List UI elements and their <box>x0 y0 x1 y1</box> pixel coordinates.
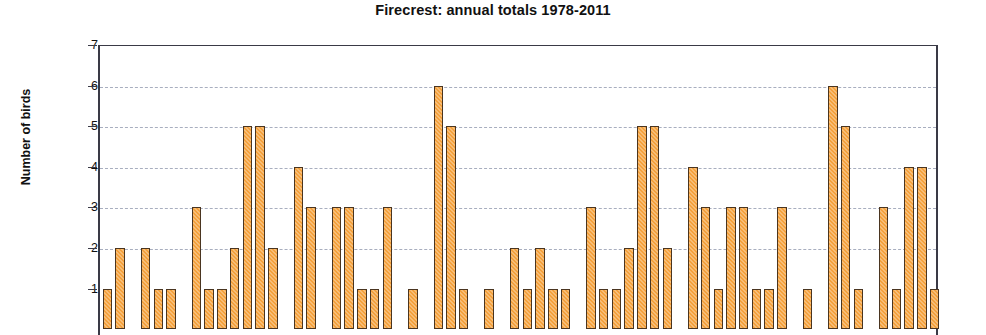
bar <box>739 207 748 329</box>
bar <box>714 289 723 330</box>
gridline-6 <box>100 87 936 88</box>
bar <box>624 248 633 329</box>
bar <box>841 126 850 329</box>
bar <box>115 248 124 329</box>
chart-title: Firecrest: annual totals 1978-2011 <box>0 2 986 18</box>
y-tick-mark-7 <box>88 45 97 46</box>
bar <box>637 126 646 329</box>
bar <box>777 207 786 329</box>
y-axis-title: Number of birds <box>19 72 33 202</box>
bar <box>268 248 277 329</box>
bar <box>752 289 761 330</box>
y-tick-mark-1 <box>88 289 97 290</box>
bar <box>294 167 303 329</box>
bar <box>141 248 150 329</box>
bar <box>523 289 532 330</box>
bar <box>344 207 353 329</box>
bar <box>892 289 901 330</box>
bar <box>357 289 366 330</box>
bar <box>306 207 315 329</box>
bar <box>701 207 710 329</box>
bar <box>917 167 926 329</box>
bar <box>255 126 264 329</box>
bar <box>828 86 837 330</box>
bar <box>663 248 672 329</box>
bar <box>535 248 544 329</box>
bar <box>548 289 557 330</box>
bar <box>854 289 863 330</box>
bar <box>204 289 213 330</box>
bar <box>612 289 621 330</box>
y-tick-mark-4 <box>88 167 97 168</box>
bar <box>154 289 163 330</box>
gridline-5 <box>100 127 936 128</box>
bar <box>904 167 913 329</box>
bar <box>726 207 735 329</box>
bar <box>408 289 417 330</box>
bar <box>930 289 939 330</box>
gridline-4 <box>100 168 936 169</box>
bar <box>459 289 468 330</box>
bar <box>243 126 252 329</box>
bar <box>217 289 226 330</box>
y-tick-mark-6 <box>88 86 97 87</box>
bar <box>561 289 570 330</box>
bar <box>688 167 697 329</box>
bar <box>332 207 341 329</box>
bar <box>230 248 239 329</box>
plot-area <box>98 45 938 335</box>
bar <box>484 289 493 330</box>
bar <box>879 207 888 329</box>
gridline-3 <box>100 208 936 209</box>
bar <box>383 207 392 329</box>
bar <box>446 126 455 329</box>
bar <box>510 248 519 329</box>
y-tick-mark-5 <box>88 126 97 127</box>
bar <box>599 289 608 330</box>
bar <box>650 126 659 329</box>
y-tick-mark-2 <box>88 248 97 249</box>
bar <box>586 207 595 329</box>
bar <box>803 289 812 330</box>
bar <box>370 289 379 330</box>
y-tick-mark-3 <box>88 207 97 208</box>
bar <box>166 289 175 330</box>
bar <box>764 289 773 330</box>
bar <box>434 86 443 330</box>
bar <box>192 207 201 329</box>
y-axis-ticks: 1234567 <box>40 0 98 295</box>
bar <box>103 289 112 330</box>
